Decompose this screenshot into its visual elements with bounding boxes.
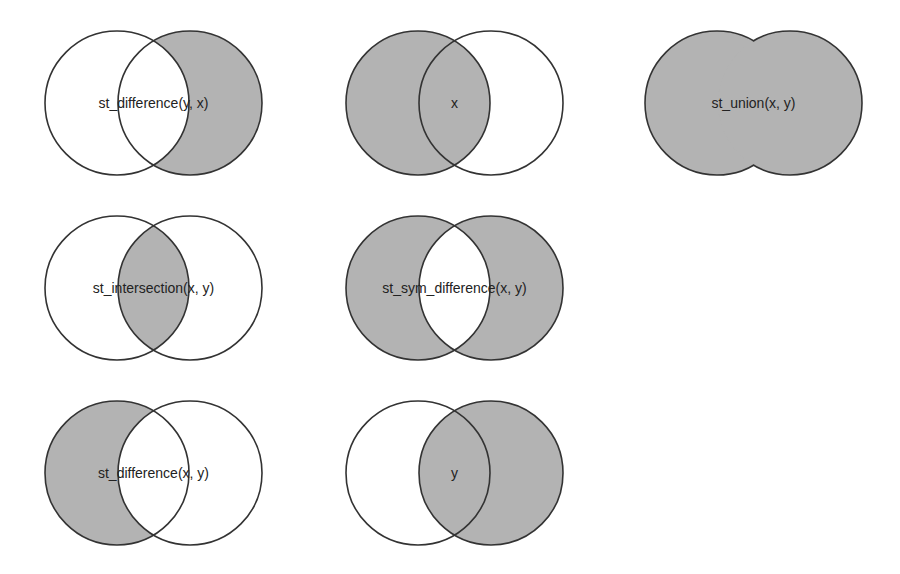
panel-label: y [451, 465, 458, 481]
panel-label: st_difference(x, y) [98, 465, 209, 481]
venn-diagram-grid: st_difference(y, x)xst_union(x, y)st_int… [0, 0, 900, 574]
